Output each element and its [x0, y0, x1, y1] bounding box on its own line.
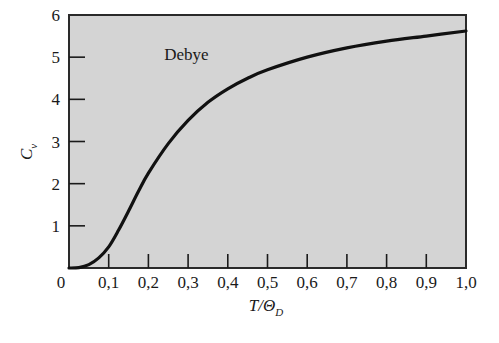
x-tick-label: 0,8 — [376, 273, 397, 292]
x-tick-label: 0,4 — [217, 273, 239, 292]
x-tick-label: 0,9 — [416, 273, 437, 292]
x-tick-label: 0,5 — [257, 273, 278, 292]
y-tick-label: 3 — [52, 133, 61, 152]
x-tick-label: 1,0 — [455, 273, 476, 292]
debye-annotation: Debye — [164, 45, 208, 64]
y-tick-label: 4 — [52, 90, 61, 109]
y-tick-label: 5 — [52, 48, 61, 67]
x-tick-label: 0,2 — [138, 273, 159, 292]
x-tick-label: 0,3 — [177, 273, 198, 292]
y-axis-label: Cv — [17, 144, 39, 160]
y-tick-label: 1 — [52, 217, 61, 236]
x-tick-label: 0,7 — [336, 273, 358, 292]
y-tick-label: 6 — [52, 6, 61, 25]
x-tick-label: 0 — [57, 273, 66, 292]
x-axis-label: T/ΘD — [249, 296, 283, 318]
plot-area — [69, 15, 466, 268]
x-tick-label: 0,1 — [98, 273, 119, 292]
x-tick-label: 0,6 — [297, 273, 318, 292]
debye-chart: 123456 00,10,20,30,40,50,60,70,80,91,0 D… — [0, 0, 499, 343]
y-tick-label: 2 — [52, 175, 61, 194]
